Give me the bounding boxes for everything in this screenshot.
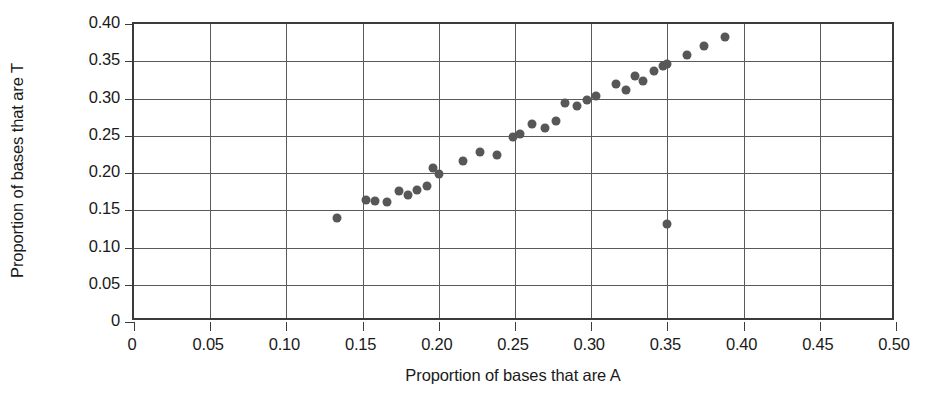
y-axis-title-text: Proportion of bases that are T xyxy=(8,63,27,278)
x-axis-tick-label: 0.25 xyxy=(497,336,528,353)
data-point xyxy=(515,129,524,138)
data-point xyxy=(591,91,600,100)
y-axis-tick-label: 0.10 xyxy=(89,237,120,254)
gridline-horizontal xyxy=(134,210,892,211)
data-point xyxy=(552,116,561,125)
data-point xyxy=(413,186,422,195)
data-point xyxy=(459,157,468,166)
x-axis-tick-mark xyxy=(363,322,364,331)
x-axis-tick-mark xyxy=(210,322,211,331)
data-point xyxy=(422,181,431,190)
y-axis-tick-label: 0.40 xyxy=(89,14,120,31)
y-axis-tick-label: 0.15 xyxy=(89,200,120,217)
gridline-vertical xyxy=(363,24,364,318)
gridline-horizontal xyxy=(134,248,892,249)
gridline-vertical xyxy=(744,24,745,318)
x-axis-tick-label: 0.45 xyxy=(802,336,833,353)
x-axis-tick-mark xyxy=(515,322,516,331)
x-axis-tick-label: 0.50 xyxy=(878,336,909,353)
gridline-vertical xyxy=(210,24,211,318)
data-point xyxy=(492,151,501,160)
gridline-vertical xyxy=(820,24,821,318)
x-axis-tick-mark xyxy=(439,322,440,331)
y-axis-tick-mark xyxy=(125,248,134,249)
gridline-vertical xyxy=(515,24,516,318)
x-axis-tick-mark xyxy=(896,322,897,331)
y-axis-tick-mark xyxy=(125,61,134,62)
scatter-chart-figure: Proportion of bases that are T 00.050.10… xyxy=(0,0,929,413)
x-axis-title: Proportion of bases that are A xyxy=(132,366,894,385)
y-axis-tick-mark xyxy=(125,322,134,323)
x-axis-tick-labels: 00.050.100.150.200.250.300.350.400.450.5… xyxy=(0,336,929,360)
x-axis-tick-label: 0.20 xyxy=(421,336,452,353)
x-axis-tick-label: 0.15 xyxy=(345,336,376,353)
data-point xyxy=(361,195,370,204)
data-point xyxy=(699,41,708,50)
y-axis-tick-mark xyxy=(125,285,134,286)
plot-area xyxy=(132,22,894,320)
data-point xyxy=(663,219,672,228)
data-point xyxy=(649,66,658,75)
data-point xyxy=(332,214,341,223)
x-axis-tick-mark xyxy=(591,322,592,331)
data-point xyxy=(721,32,730,41)
x-axis-tick-label: 0.35 xyxy=(650,336,681,353)
y-axis-tick-label: 0 xyxy=(111,312,120,329)
y-axis-tick-mark xyxy=(125,210,134,211)
data-point xyxy=(382,198,391,207)
y-axis-title: Proportion of bases that are T xyxy=(0,0,34,340)
x-axis-tick-label: 0.40 xyxy=(726,336,757,353)
gridline-horizontal xyxy=(134,285,892,286)
x-axis-tick-mark xyxy=(820,322,821,331)
gridline-horizontal xyxy=(134,61,892,62)
y-axis-tick-label: 0.25 xyxy=(89,126,120,143)
data-point xyxy=(404,190,413,199)
data-point xyxy=(561,98,570,107)
data-point xyxy=(541,123,550,132)
data-point xyxy=(434,169,443,178)
data-point xyxy=(663,60,672,69)
x-axis-tick-mark xyxy=(667,322,668,331)
x-axis-tick-mark xyxy=(286,322,287,331)
data-point xyxy=(639,76,648,85)
y-axis-tick-mark xyxy=(125,99,134,100)
y-axis-tick-label: 0.05 xyxy=(89,275,120,292)
data-point xyxy=(475,148,484,157)
data-point xyxy=(527,119,536,128)
data-point xyxy=(683,51,692,60)
gridline-vertical xyxy=(286,24,287,318)
y-axis-tick-label: 0.20 xyxy=(89,163,120,180)
x-axis-tick-label: 0.05 xyxy=(193,336,224,353)
y-axis-tick-mark xyxy=(125,173,134,174)
data-point xyxy=(622,85,631,94)
data-point xyxy=(370,197,379,206)
data-point xyxy=(611,79,620,88)
data-point xyxy=(573,101,582,110)
data-point xyxy=(582,95,591,104)
y-axis-tick-mark xyxy=(125,136,134,137)
gridline-vertical xyxy=(591,24,592,318)
x-axis-tick-label: 0.30 xyxy=(574,336,605,353)
y-axis-tick-mark xyxy=(125,24,134,25)
gridline-horizontal xyxy=(134,173,892,174)
y-axis-tick-label: 0.30 xyxy=(89,88,120,105)
data-point xyxy=(395,186,404,195)
y-axis-tick-label: 0.35 xyxy=(89,51,120,68)
x-axis-tick-mark xyxy=(134,322,135,331)
gridline-horizontal xyxy=(134,99,892,100)
x-axis-tick-label: 0.10 xyxy=(269,336,300,353)
x-axis-tick-mark xyxy=(744,322,745,331)
x-axis-tick-label: 0 xyxy=(128,336,137,353)
